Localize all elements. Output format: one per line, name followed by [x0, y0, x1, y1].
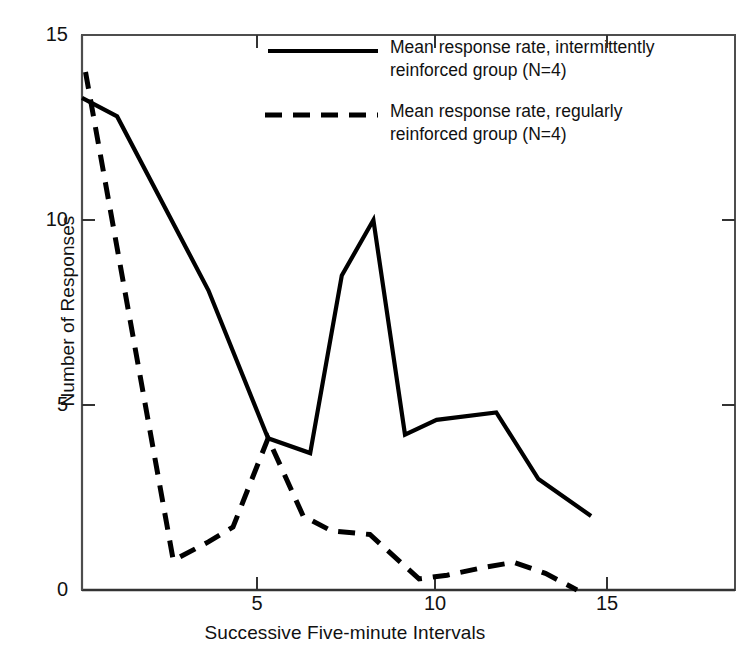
- tick-marks: [82, 35, 735, 590]
- axes-frame: [82, 35, 735, 590]
- series-line-intermittent: [82, 98, 591, 516]
- plot-frame: [82, 35, 735, 590]
- plot-area: [0, 0, 751, 654]
- chart-figure: Number of Responses Successive Five-minu…: [0, 0, 751, 654]
